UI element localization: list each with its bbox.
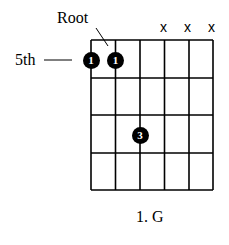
finger-dot-string-1: 1 <box>83 52 100 69</box>
finger-dot-string-3: 3 <box>132 127 149 144</box>
fret-position-label: 5th <box>15 52 35 68</box>
muted-string-4-marker: x <box>160 20 167 34</box>
muted-string-6-marker: x <box>208 20 215 34</box>
chord-grid <box>0 0 229 245</box>
chord-caption: 1. G <box>136 209 164 225</box>
finger-dot-string-2: 1 <box>107 52 124 69</box>
muted-string-5-marker: x <box>184 20 191 34</box>
root-label: Root <box>57 10 88 26</box>
root-leader-line <box>96 28 108 46</box>
